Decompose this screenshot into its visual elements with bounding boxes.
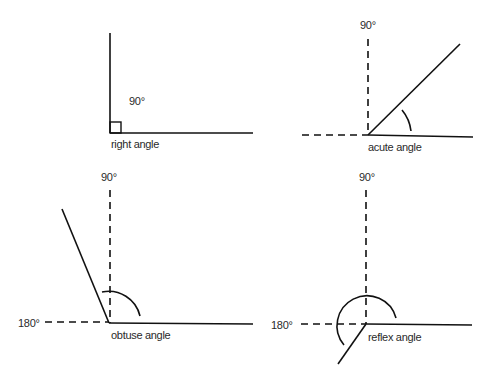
obtuse-angle-90-label: 90° (101, 171, 117, 183)
reflex-angle-panel: 90° 180° reflex angle (271, 171, 472, 364)
acute-angle-name-label: acute angle (368, 141, 422, 153)
obtuse-angle-base-ray (109, 323, 253, 324)
acute-angle-90-label: 90° (360, 19, 376, 31)
right-angle-square-marker (110, 122, 121, 133)
reflex-angle-90-label: 90° (359, 171, 375, 183)
acute-angle-panel: 90° acute angle (302, 19, 473, 153)
reflex-angle-base-ray (366, 324, 472, 325)
acute-angle-ray (368, 44, 460, 135)
right-angle-degree-label: 90° (129, 95, 145, 107)
right-angle-name-label: right angle (111, 138, 159, 150)
obtuse-angle-ray (62, 209, 109, 323)
right-angle-panel: 90° right angle (110, 33, 253, 150)
acute-angle-base-ray (368, 135, 473, 137)
reflex-angle-name-label: reflex angle (368, 331, 421, 343)
reflex-angle-180-label: 180° (271, 319, 293, 331)
obtuse-angle-panel: 90° 180° obtuse angle (18, 171, 253, 341)
obtuse-angle-name-label: obtuse angle (111, 329, 171, 341)
angle-types-diagram: 90° right angle 90° acute angle 90° 180°… (0, 0, 494, 377)
obtuse-angle-arc (102, 291, 140, 316)
obtuse-angle-180-label: 180° (18, 317, 40, 329)
acute-angle-arc (402, 110, 411, 131)
